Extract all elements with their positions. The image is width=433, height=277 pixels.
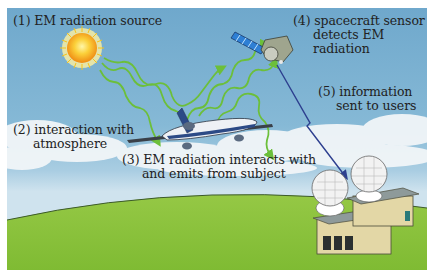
sun-icon: [60, 26, 104, 70]
step-5-label: (5) information sent to users: [318, 85, 416, 113]
satellite-icon: [231, 32, 293, 64]
step-2-label: (2) interaction with atmosphere: [13, 123, 134, 151]
step-3-label: (3) EM radiation interacts with and emit…: [122, 153, 316, 181]
diagram-frame: (1) EM radiation source (2) interaction …: [7, 8, 427, 270]
step-4-label: (4) spacecraft sensor detects EM radiati…: [293, 14, 425, 56]
step-1-label: (1) EM radiation source: [13, 14, 162, 28]
